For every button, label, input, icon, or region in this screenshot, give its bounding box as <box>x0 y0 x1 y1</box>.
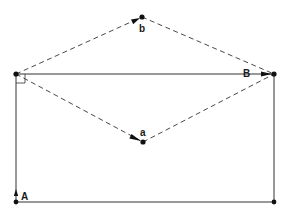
dashed-a-to-topright <box>143 74 274 142</box>
vector-diagram: b a B A <box>0 0 289 211</box>
point-bottom-left <box>14 200 19 205</box>
dashed-b-to-topright <box>142 17 274 74</box>
label-A: A <box>21 191 28 202</box>
dashed-topleft-to-b <box>16 17 142 74</box>
point-bottom-right <box>272 200 277 205</box>
label-a: a <box>140 127 146 138</box>
label-B: B <box>243 68 250 79</box>
label-b: b <box>139 23 145 34</box>
arrowhead-A <box>14 189 18 196</box>
point-top-right <box>271 71 276 76</box>
dashed-topleft-to-a <box>16 74 143 142</box>
point-b <box>139 14 144 19</box>
point-a <box>140 139 145 144</box>
point-top-left <box>13 71 18 76</box>
